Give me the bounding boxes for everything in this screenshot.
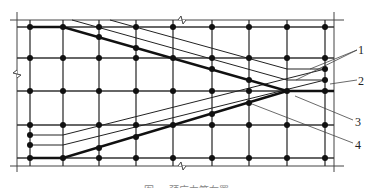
label-4: 4 [355,139,361,151]
figure-caption: 图 — 预应力筋布置 [0,182,372,188]
label-1: 1 [358,44,364,56]
tendon-layout-diagram [0,0,372,188]
thin-tendons [30,20,325,145]
label-2: 2 [358,75,364,87]
label-3: 3 [355,116,361,128]
